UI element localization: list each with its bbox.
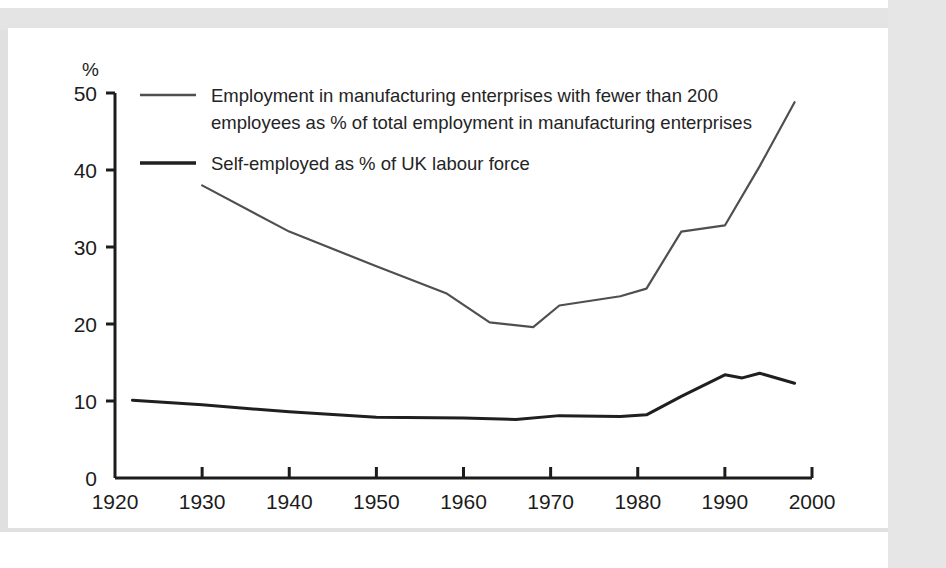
y-axis-unit-label: % [82, 59, 99, 80]
x-tick-label: 2000 [789, 490, 836, 513]
x-tick-label: 1930 [179, 490, 226, 513]
y-tick-label: 20 [74, 313, 97, 336]
legend-label-self-employed-line1: Self-employed as % of UK labour force [211, 153, 530, 174]
y-axis-ticks: 01020304050 [74, 82, 115, 490]
legend-label-manufacturing-line1: Employment in manufacturing enterprises … [211, 85, 718, 106]
y-tick-label: 30 [74, 236, 97, 259]
x-tick-label: 1980 [614, 490, 661, 513]
y-tick-label: 0 [85, 467, 97, 490]
y-tick-label: 10 [74, 390, 97, 413]
x-tick-label: 1950 [353, 490, 400, 513]
x-tick-label: 1960 [440, 490, 487, 513]
x-tick-label: 1970 [527, 490, 574, 513]
chart-legend: Employment in manufacturing enterprises … [140, 85, 752, 174]
y-tick-label: 40 [74, 159, 97, 182]
legend-label-manufacturing-line2: employees as % of total employment in ma… [211, 112, 752, 133]
x-tick-label: 1920 [92, 490, 139, 513]
data-series-group [132, 102, 794, 419]
y-tick-label: 50 [74, 82, 97, 105]
x-tick-label: 1940 [266, 490, 313, 513]
series-line-self-employed-share-uk-labour-force [132, 373, 794, 419]
plot-area: % 01020304050 19201930194019501960197019… [0, 0, 946, 568]
line-chart: % 01020304050 19201930194019501960197019… [0, 0, 946, 568]
x-axis-ticks: 192019301940195019601970198019902000 [92, 467, 836, 513]
x-tick-label: 1990 [702, 490, 749, 513]
series-line-small-firm-manufacturing-employment-share [202, 102, 794, 327]
axis-lines [115, 93, 812, 478]
chart-page: % 01020304050 19201930194019501960197019… [0, 0, 946, 568]
